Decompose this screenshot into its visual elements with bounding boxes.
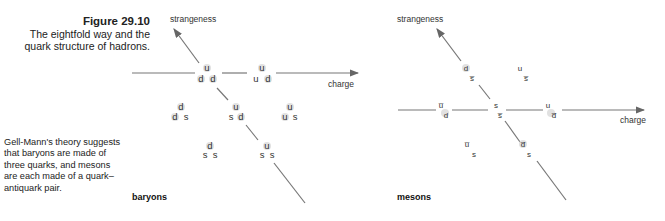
meson-particle: u̅ d bbox=[438, 101, 449, 120]
baryon-particle: u s s bbox=[260, 140, 275, 160]
svg-text:s̅: s̅ bbox=[497, 111, 503, 120]
svg-text:s: s bbox=[270, 149, 275, 160]
svg-text:u̅: u̅ bbox=[438, 101, 444, 110]
svg-text:s: s bbox=[494, 101, 498, 110]
baryon-particle: u u d bbox=[253, 62, 272, 84]
meson-particle: d s̅ bbox=[462, 64, 475, 83]
baryon-particle: d s s bbox=[203, 140, 218, 160]
svg-text:u: u bbox=[282, 111, 287, 122]
svg-text:s: s bbox=[184, 111, 189, 122]
svg-text:s: s bbox=[229, 111, 234, 122]
baryon-particle: u u s bbox=[281, 101, 298, 122]
svg-text:s: s bbox=[203, 149, 208, 160]
strangeness-axis-label: strangeness bbox=[397, 14, 443, 24]
svg-text:d: d bbox=[210, 73, 215, 84]
meson-particle: u̅ s bbox=[464, 140, 476, 159]
eightfold-way-diagram: strangeness charge baryons u d d u u d d… bbox=[0, 0, 665, 221]
svg-text:s: s bbox=[293, 111, 298, 122]
baryons-label: baryons bbox=[132, 192, 167, 202]
svg-text:s: s bbox=[472, 150, 476, 159]
svg-text:d: d bbox=[198, 73, 203, 84]
svg-text:u̅: u̅ bbox=[464, 140, 470, 149]
baryon-particle: d d s bbox=[171, 101, 189, 122]
svg-text:d: d bbox=[172, 111, 177, 122]
svg-text:d: d bbox=[464, 64, 468, 73]
strangeness-axis-arrow bbox=[437, 29, 461, 61]
svg-text:d̅: d̅ bbox=[520, 140, 526, 149]
svg-text:u: u bbox=[259, 62, 264, 73]
svg-text:d: d bbox=[444, 111, 448, 120]
svg-text:u: u bbox=[204, 62, 209, 73]
strangeness-axis-arrow bbox=[174, 29, 199, 63]
svg-text:u: u bbox=[518, 64, 522, 73]
svg-text:d: d bbox=[238, 111, 243, 122]
charge-axis-label: charge bbox=[620, 115, 646, 125]
charge-axis-label: charge bbox=[328, 79, 354, 89]
meson-particle: d̅ s bbox=[519, 140, 531, 159]
baryon-particle: u d d bbox=[197, 62, 217, 84]
svg-text:s: s bbox=[260, 149, 265, 160]
meson-particle: u s̅ bbox=[518, 64, 529, 83]
svg-text:d̅: d̅ bbox=[551, 111, 557, 120]
svg-text:u: u bbox=[253, 73, 258, 84]
baryon-particle: u s d bbox=[229, 101, 245, 122]
svg-text:s: s bbox=[527, 150, 531, 159]
meson-octet: strangeness charge mesons d s̅ u s̅ u̅ d… bbox=[397, 14, 646, 202]
meson-particle: u d̅ bbox=[546, 101, 557, 120]
mesons-label: mesons bbox=[397, 192, 431, 202]
baryon-octet: strangeness charge baryons u d d u u d d… bbox=[132, 14, 358, 203]
svg-text:u: u bbox=[546, 101, 550, 110]
svg-text:s: s bbox=[213, 149, 218, 160]
strangeness-axis-label: strangeness bbox=[170, 14, 216, 24]
svg-text:d: d bbox=[265, 73, 270, 84]
svg-text:s̅: s̅ bbox=[469, 74, 475, 83]
svg-text:s̅: s̅ bbox=[523, 74, 529, 83]
meson-particle: s s̅ bbox=[494, 101, 503, 120]
